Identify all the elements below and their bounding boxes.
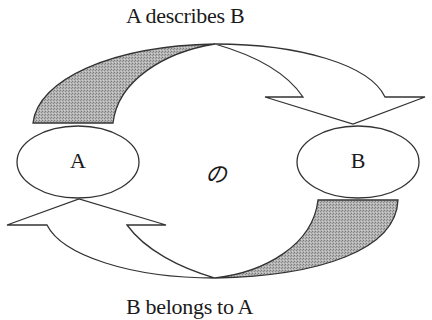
node-b-label: B: [338, 149, 378, 173]
top-arrow-shaded-tail: [33, 44, 215, 123]
bottom-arrow-head: [7, 199, 215, 278]
center-connector-label: の: [200, 162, 232, 188]
top-caption: A describes B: [126, 3, 244, 29]
bottom-arrow-shaded-tail: [215, 200, 398, 278]
node-a-label: A: [58, 149, 98, 173]
bottom-caption: B belongs to A: [126, 294, 253, 320]
top-arrow-head: [215, 44, 425, 124]
